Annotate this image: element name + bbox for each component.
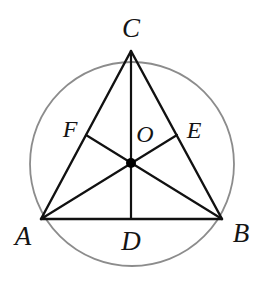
point-label-a: A (15, 223, 32, 250)
geometry-figure: A B C D E F O (0, 0, 266, 285)
centroid-point-marker (126, 158, 136, 168)
segment-median-AE (41, 135, 177, 219)
point-label-o: O (136, 122, 153, 146)
point-label-d: D (121, 228, 141, 255)
point-label-b: B (233, 220, 250, 247)
point-label-f: F (63, 117, 78, 141)
point-label-e: E (187, 118, 202, 142)
point-label-c: C (122, 15, 140, 42)
segment-median-BF (86, 135, 222, 219)
